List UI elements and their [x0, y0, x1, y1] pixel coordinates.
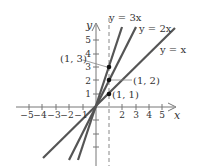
point-1-1	[107, 92, 112, 97]
y-tick-label: 1	[85, 89, 91, 99]
label-y-equals-2x: y = 2x	[138, 23, 172, 34]
x-tick-label: −5	[20, 110, 34, 120]
y-tick-label: 3	[85, 62, 91, 72]
label-point-1-1: (1, 1)	[112, 89, 139, 100]
label-point-1-3: (1, 3)	[60, 53, 87, 64]
x-tick-label: 3	[133, 110, 139, 120]
y-tick-label: 5	[85, 35, 91, 45]
y-tick-label: 2	[85, 76, 91, 86]
y-tick-label: 4	[85, 49, 91, 59]
label-y-equals-3x: y = 3x	[108, 12, 142, 23]
x-tick-label: −2	[60, 110, 73, 120]
point-1-3	[107, 65, 112, 70]
y-axis-label: y	[85, 19, 93, 32]
x-axis-label: x	[174, 109, 181, 122]
label-y-equals-x: y = x	[159, 44, 186, 55]
label-point-1-2: (1, 2)	[133, 75, 160, 86]
linear-functions-chart: y = 3x y = 2x y = x (1, 3) (1, 2) (1, 1)…	[0, 0, 200, 166]
x-tick-label: −4	[33, 110, 47, 120]
x-tick-label: −3	[47, 110, 61, 120]
x-tick-label: 5	[159, 110, 165, 120]
x-tick-label: 4	[146, 110, 152, 120]
point-1-2	[107, 78, 112, 83]
x-tick-label: −1	[74, 110, 87, 120]
x-tick-label: 2	[119, 110, 125, 120]
